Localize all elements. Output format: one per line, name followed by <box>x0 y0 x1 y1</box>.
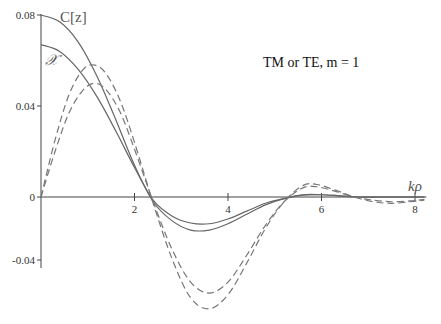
x-axis-label: kρ <box>408 178 422 194</box>
x-tick-label: 2 <box>132 203 138 215</box>
series-line-dashed-inner <box>41 83 424 293</box>
series-label-cz: C[z] <box>60 9 87 25</box>
x-ticks: 2468 <box>132 193 419 215</box>
series-label-x: 𝒳 <box>45 52 62 68</box>
y-ticks: 0.080.040-0.04 <box>12 9 41 266</box>
y-tick-label: 0.08 <box>16 9 36 21</box>
chart: 0.080.040-0.04 2468 C[z] 𝒳 kρ TM or TE, … <box>0 0 441 324</box>
series-line-c-z <box>41 15 424 231</box>
annotation: TM or TE, m = 1 <box>263 55 359 70</box>
y-tick-label: 0.04 <box>16 100 36 112</box>
y-tick-label: 0 <box>30 191 36 203</box>
y-tick-label: -0.04 <box>12 254 35 266</box>
curves <box>41 15 424 309</box>
axes <box>41 14 426 268</box>
x-tick-label: 4 <box>225 203 231 215</box>
series-line-dashed-outer <box>41 65 424 309</box>
x-tick-label: 8 <box>412 203 418 215</box>
x-tick-label: 6 <box>319 203 325 215</box>
